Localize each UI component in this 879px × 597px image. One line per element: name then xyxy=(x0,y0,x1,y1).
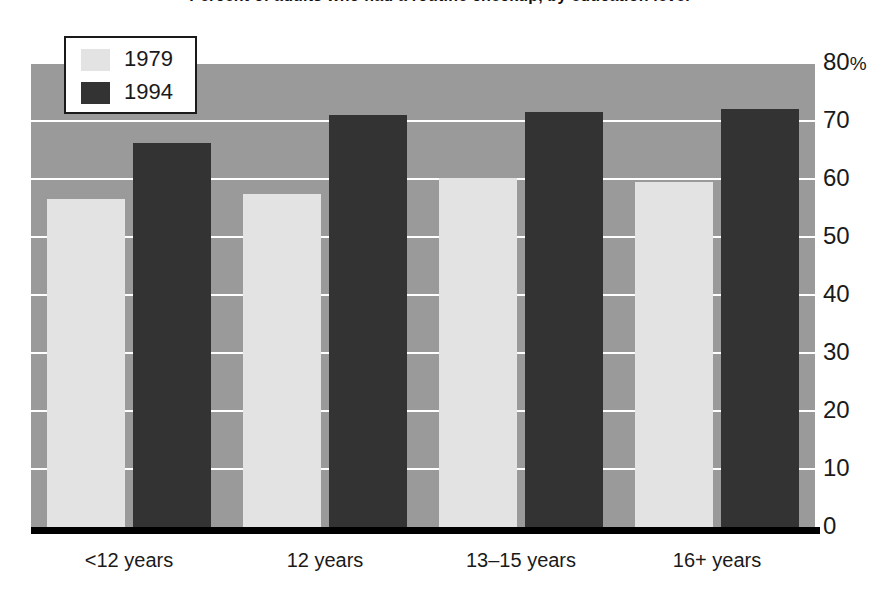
y-tick-label-20: 20 xyxy=(823,398,850,422)
y-tick-label-40: 40 xyxy=(823,282,850,306)
bar-1979-13-15-years xyxy=(439,178,517,527)
bar-1994-12-years xyxy=(329,115,407,527)
y-axis-percent-sign: % xyxy=(850,53,867,74)
bar-1979-12-years xyxy=(243,194,321,527)
bar-1979--12-years xyxy=(47,199,125,527)
y-tick-label-30: 30 xyxy=(823,340,850,364)
chart-title: Percent of adults who had a routine chec… xyxy=(0,0,879,5)
bar-chart-figure: Percent of adults who had a routine chec… xyxy=(0,0,879,597)
legend-label-1994: 1994 xyxy=(124,79,173,105)
y-tick-label-80: 80% xyxy=(823,50,867,76)
bar-1994-13-15-years xyxy=(525,112,603,527)
y-tick-label-0: 0 xyxy=(823,514,836,538)
gridline-70 xyxy=(31,120,815,122)
legend-swatch-1979 xyxy=(81,49,110,71)
legend: 1979 1994 xyxy=(64,36,197,114)
x-axis-label-3: 13–15 years xyxy=(423,549,619,572)
x-axis-label-1: <12 years xyxy=(31,549,227,572)
x-axis-label-4: 16+ years xyxy=(619,549,815,572)
bar-1979-16-years xyxy=(635,182,713,527)
bar-1994--12-years xyxy=(133,143,211,527)
x-axis-baseline xyxy=(31,527,820,534)
y-tick-label-10: 10 xyxy=(823,456,850,480)
y-tick-label-70: 70 xyxy=(823,108,850,132)
legend-swatch-1994 xyxy=(81,82,110,104)
x-axis-label-2: 12 years xyxy=(227,549,423,572)
plot-area xyxy=(31,63,815,527)
y-tick-label-50: 50 xyxy=(823,224,850,248)
bar-1994-16-years xyxy=(721,109,799,527)
y-tick-label-60: 60 xyxy=(823,166,850,190)
legend-label-1979: 1979 xyxy=(124,46,173,72)
